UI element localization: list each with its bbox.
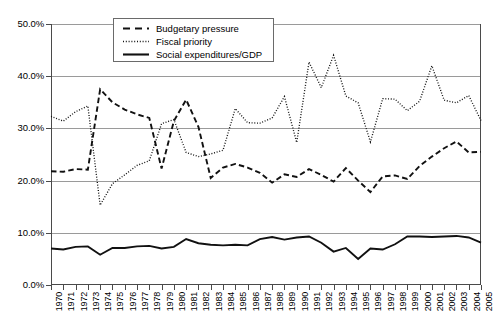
x-tick-label: 1981 (190, 292, 199, 311)
x-tick-label: 1974 (104, 292, 113, 311)
x-tick-mark (346, 285, 347, 290)
legend-item-social-expenditures: Social expenditures/GDP (120, 48, 269, 61)
x-tick-mark (456, 285, 457, 290)
x-tick-label: 1997 (387, 292, 396, 311)
dotted-line-key-icon (120, 36, 152, 47)
x-tick-label: 1993 (338, 292, 347, 311)
x-tick-label: 2000 (424, 292, 433, 311)
x-tick-label: 1971 (67, 292, 76, 311)
x-tick-label: 1982 (202, 292, 211, 311)
x-tick-mark (125, 285, 126, 290)
x-tick-label: 1973 (92, 292, 101, 311)
x-tick-mark (321, 285, 322, 290)
x-tick-label: 1979 (166, 292, 175, 311)
y-tick-label: 30.0% (0, 123, 44, 133)
y-tick-label: 20.0% (0, 176, 44, 186)
y-tick-label: 10.0% (0, 228, 44, 238)
x-tick-mark (444, 285, 445, 290)
x-tick-label: 1988 (276, 292, 285, 311)
legend-label: Fiscal priority (152, 36, 212, 47)
x-tick-mark (174, 285, 175, 290)
x-tick-label: 2005 (485, 292, 494, 311)
legend-item-budgetary-pressure: Budgetary pressure (120, 22, 269, 35)
x-tick-label: 2003 (460, 292, 469, 311)
x-tick-mark (481, 285, 482, 290)
x-tick-mark (223, 285, 224, 290)
y-tick-mark (46, 181, 51, 182)
x-tick-mark (260, 285, 261, 290)
legend: Budgetary pressure Fiscal priority Socia… (113, 18, 274, 62)
x-tick-mark (383, 285, 384, 290)
x-tick-mark (76, 285, 77, 290)
x-tick-mark (370, 285, 371, 290)
x-tick-mark (100, 285, 101, 290)
x-tick-mark (211, 285, 212, 290)
x-tick-label: 2002 (448, 292, 457, 311)
legend-item-fiscal-priority: Fiscal priority (120, 35, 269, 48)
y-tick-mark (46, 128, 51, 129)
x-tick-mark (420, 285, 421, 290)
x-tick-mark (149, 285, 150, 290)
x-tick-mark (162, 285, 163, 290)
x-tick-label: 1989 (288, 292, 297, 311)
x-tick-mark (88, 285, 89, 290)
x-tick-label: 1972 (80, 292, 89, 311)
x-tick-label: 1987 (264, 292, 273, 311)
y-tick-label: 0.0% (0, 280, 44, 290)
x-tick-mark (407, 285, 408, 290)
dashed-line-key-icon (120, 23, 152, 34)
x-tick-label: 1992 (325, 292, 334, 311)
x-tick-label: 1991 (313, 292, 322, 311)
x-tick-mark (469, 285, 470, 290)
x-tick-mark (297, 285, 298, 290)
x-tick-mark (358, 285, 359, 290)
x-tick-mark (235, 285, 236, 290)
x-tick-label: 1970 (55, 292, 64, 311)
legend-label: Social expenditures/GDP (152, 49, 262, 60)
y-tick-label: 50.0% (0, 19, 44, 29)
x-tick-label: 1986 (252, 292, 261, 311)
x-tick-label: 1977 (141, 292, 150, 311)
x-tick-label: 1976 (129, 292, 138, 311)
x-tick-label: 1978 (153, 292, 162, 311)
x-tick-label: 2001 (436, 292, 445, 311)
x-tick-label: 1996 (374, 292, 383, 311)
x-tick-mark (432, 285, 433, 290)
x-tick-label: 1994 (350, 292, 359, 311)
solid-line-key-icon (120, 49, 152, 60)
x-tick-mark (63, 285, 64, 290)
x-tick-mark (198, 285, 199, 290)
x-tick-mark (248, 285, 249, 290)
x-tick-mark (395, 285, 396, 290)
x-tick-mark (112, 285, 113, 290)
y-tick-mark (46, 24, 51, 25)
x-tick-label: 1984 (227, 292, 236, 311)
x-tick-label: 1998 (399, 292, 408, 311)
x-tick-label: 1980 (178, 292, 187, 311)
x-tick-label: 1985 (239, 292, 248, 311)
y-tick-mark (46, 76, 51, 77)
x-tick-label: 2004 (473, 292, 482, 311)
x-tick-label: 1975 (116, 292, 125, 311)
x-tick-label: 1995 (362, 292, 371, 311)
legend-label: Budgetary pressure (152, 23, 239, 34)
x-tick-label: 1983 (215, 292, 224, 311)
x-tick-mark (284, 285, 285, 290)
x-tick-label: 1999 (411, 292, 420, 311)
y-tick-mark (46, 233, 51, 234)
x-tick-mark (334, 285, 335, 290)
x-tick-label: 1990 (301, 292, 310, 311)
y-tick-label: 40.0% (0, 71, 44, 81)
x-tick-mark (272, 285, 273, 290)
x-tick-mark (137, 285, 138, 290)
x-tick-mark (186, 285, 187, 290)
x-tick-mark (309, 285, 310, 290)
x-tick-mark (51, 285, 52, 290)
